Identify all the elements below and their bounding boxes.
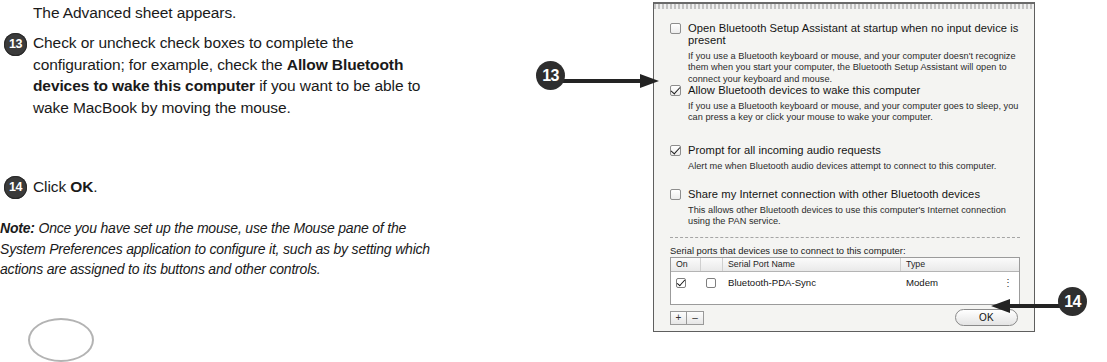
column-header-type[interactable]: Type xyxy=(901,258,1019,271)
callout-arrow-14 xyxy=(990,298,1060,314)
row-flag-cell[interactable] xyxy=(701,275,723,291)
checkbox-row-open-setup-assistant[interactable]: Open Bluetooth Setup Assistant at startu… xyxy=(670,22,1020,46)
column-header-on[interactable]: On xyxy=(671,258,701,271)
option-group-audio-prompt: Prompt for all incoming audio requests A… xyxy=(670,144,1020,172)
step-number-badge-13: 13 xyxy=(4,33,27,56)
row-type: Modem xyxy=(901,275,1019,291)
column-header-serial-port-name[interactable]: Serial Port Name xyxy=(723,258,901,271)
callout-marker-13: 13 xyxy=(536,61,565,90)
bluetooth-advanced-sheet: Open Bluetooth Setup Assistant at startu… xyxy=(653,2,1035,332)
row-on-checkbox[interactable] xyxy=(676,278,686,288)
serial-ports-table: On Serial Port Name Type Bluetooth-PDA-S… xyxy=(670,257,1020,305)
vertical-ellipsis-icon[interactable]: ⋮ xyxy=(1003,278,1013,287)
step-14-text: Click OK. xyxy=(33,176,425,198)
checkbox-open-setup-assistant[interactable] xyxy=(670,23,681,34)
note-block: Note: Once you have set up the mouse, us… xyxy=(0,218,430,280)
serial-ports-caption: Serial ports that devices use to connect… xyxy=(670,245,906,256)
sheet-grip-handle xyxy=(654,4,1034,9)
checkbox-description-allow-wake: If you use a Bluetooth keyboard or mouse… xyxy=(688,101,1020,124)
checkbox-row-allow-wake[interactable]: Allow Bluetooth devices to wake this com… xyxy=(670,84,1020,96)
checkbox-allow-wake[interactable] xyxy=(670,85,681,96)
note-label: Note: xyxy=(0,220,35,236)
intro-sentence: The Advanced sheet appears. xyxy=(33,2,236,24)
row-on-cell[interactable] xyxy=(671,275,701,291)
table-header-row: On Serial Port Name Type xyxy=(671,258,1019,272)
option-group-allow-wake: Allow Bluetooth devices to wake this com… xyxy=(670,84,1020,124)
note-text: Once you have set up the mouse, use the … xyxy=(0,220,430,277)
add-port-button[interactable]: + xyxy=(670,311,687,325)
column-header-flag[interactable] xyxy=(701,258,723,271)
option-group-share-internet: Share my Internet connection with other … xyxy=(670,188,1020,228)
table-row[interactable]: Bluetooth-PDA-Sync Modem ⋮ xyxy=(671,275,1019,291)
add-remove-button-group: + – xyxy=(670,311,704,325)
step-number-badge-14: 14 xyxy=(4,176,27,199)
row-flag-checkbox[interactable] xyxy=(706,278,716,288)
scan-artifact-arc xyxy=(28,318,94,362)
step-14-text-part2: . xyxy=(93,178,97,195)
checkbox-label-open-setup-assistant: Open Bluetooth Setup Assistant at startu… xyxy=(688,22,1020,46)
step-14-text-part1: Click xyxy=(33,178,70,195)
row-serial-port-name: Bluetooth-PDA-Sync xyxy=(723,275,901,291)
checkbox-audio-prompt[interactable] xyxy=(670,145,681,156)
checkbox-description-audio-prompt: Alert me when Bluetooth audio devices at… xyxy=(688,161,1020,172)
step-13-text: Check or uncheck check boxes to complete… xyxy=(33,32,425,118)
checkbox-row-share-internet[interactable]: Share my Internet connection with other … xyxy=(670,188,1020,200)
callout-arrow-13 xyxy=(556,73,660,89)
checkbox-label-audio-prompt: Prompt for all incoming audio requests xyxy=(688,144,881,156)
checkbox-description-open-setup-assistant: If you use a Bluetooth keyboard or mouse… xyxy=(688,51,1020,85)
remove-port-button[interactable]: – xyxy=(687,311,704,325)
checkbox-label-share-internet: Share my Internet connection with other … xyxy=(688,188,980,200)
section-divider xyxy=(670,237,1020,238)
checkbox-row-audio-prompt[interactable]: Prompt for all incoming audio requests xyxy=(670,144,1020,156)
callout-marker-14: 14 xyxy=(1058,287,1087,316)
checkbox-description-share-internet: This allows other Bluetooth devices to u… xyxy=(688,205,1020,228)
checkbox-label-allow-wake: Allow Bluetooth devices to wake this com… xyxy=(688,84,920,96)
option-group-open-setup-assistant: Open Bluetooth Setup Assistant at startu… xyxy=(670,22,1020,85)
checkbox-share-internet[interactable] xyxy=(670,189,681,200)
instruction-column: The Advanced sheet appears. 13 Check or … xyxy=(0,0,430,329)
step-14-bold-control-name: OK xyxy=(70,178,93,195)
